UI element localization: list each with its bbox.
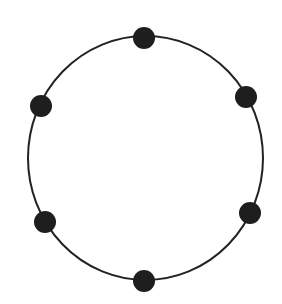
ring-ellipse	[28, 36, 263, 280]
node-bottom	[133, 270, 155, 292]
diagram-canvas	[0, 0, 282, 304]
node-upper-right	[235, 86, 257, 108]
node-top	[133, 27, 155, 49]
ring-diagram	[0, 0, 282, 304]
node-lower-right	[239, 202, 261, 224]
node-upper-left	[30, 95, 52, 117]
node-group	[30, 27, 261, 292]
node-lower-left	[34, 211, 56, 233]
